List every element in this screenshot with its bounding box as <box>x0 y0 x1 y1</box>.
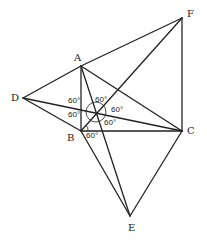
geometry-diagram: A B C D E F 60° 60° 60° 60° 60° 60° <box>0 0 207 240</box>
segment-AF <box>81 18 182 66</box>
point-label-B: B <box>67 133 74 143</box>
point-label-E: E <box>128 223 135 233</box>
angle-label-center-top: 60° <box>95 96 107 104</box>
segment-BE <box>81 131 130 216</box>
point-label-D: D <box>11 93 19 103</box>
point-label-C: C <box>187 126 195 136</box>
point-label-A: A <box>74 53 81 63</box>
segment-DA <box>23 66 81 98</box>
angle-label-DBA: 60° <box>68 111 80 119</box>
segment-AE <box>81 66 130 216</box>
point-label-F: F <box>187 9 194 19</box>
segment-EC <box>130 131 182 216</box>
angle-label-CBE: 60° <box>86 132 98 140</box>
angle-label-DAB: 60° <box>68 97 80 105</box>
segment-BF <box>81 18 182 131</box>
angle-label-center-right: 60° <box>111 106 123 114</box>
angle-label-center-bottom: 60° <box>104 119 116 127</box>
